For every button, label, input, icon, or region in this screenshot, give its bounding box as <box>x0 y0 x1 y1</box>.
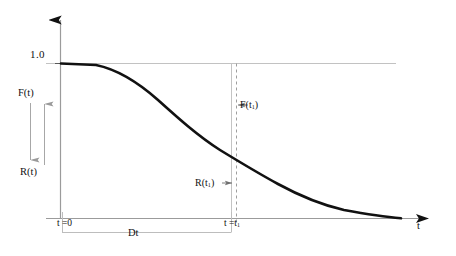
F-of-t1-callout: F(t1) <box>240 100 258 111</box>
R-callout-base: R(t <box>195 177 208 188</box>
x-axis-name-label: t <box>417 221 420 232</box>
F-callout-base: F(t <box>240 99 252 110</box>
x-origin-label: t =0 <box>57 219 72 229</box>
y-axis-value-one: 1.0 <box>30 49 45 60</box>
R-callout-close: ) <box>211 177 214 188</box>
F-of-t-label: F(t) <box>18 88 34 99</box>
R-of-t-label: R(t) <box>20 167 37 178</box>
reliability-function-figure: 1.0 F(t) R(t) t =0 Dt t =t1 F(t1) R(t1) … <box>0 0 456 256</box>
R-of-t1-callout: R(t1) <box>195 178 214 189</box>
interval-label: Dt <box>128 228 139 239</box>
t1-subscript: 1 <box>237 222 240 228</box>
F-callout-close: ) <box>255 99 258 110</box>
t1-base: t =t <box>224 218 237 228</box>
t-equals-t1-label: t =t1 <box>224 219 240 229</box>
